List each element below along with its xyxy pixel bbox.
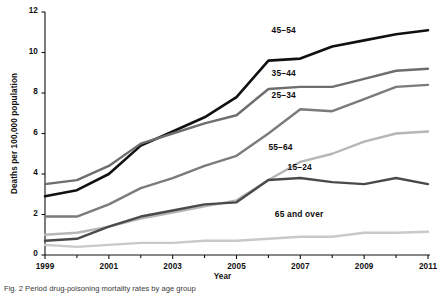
- y-tick-label: 2: [12, 209, 38, 218]
- x-axis-title: Year: [0, 272, 445, 281]
- figure-caption: Fig. 2 Period drug-poisoning mortality r…: [4, 284, 440, 293]
- series-line-45-54: [45, 30, 428, 196]
- x-tick-label: 2003: [153, 262, 193, 271]
- series-label-25-34: 25–34: [272, 90, 296, 100]
- y-tick-label: 6: [12, 128, 38, 137]
- series-line-65 and over: [45, 232, 428, 247]
- x-tick-label: 2005: [217, 262, 257, 271]
- series-line-15-24: [45, 178, 428, 241]
- series-line-25-34: [45, 85, 428, 217]
- y-tick-label: 10: [12, 47, 38, 56]
- x-tick-label: 2007: [280, 262, 320, 271]
- y-tick-label: 4: [12, 168, 38, 177]
- series-label-35-44: 35–44: [272, 68, 296, 78]
- line-chart-canvas: [0, 0, 445, 293]
- x-tick-label: 2009: [344, 262, 384, 271]
- chart-axes: [42, 12, 431, 259]
- series-label-55-64: 55–64: [268, 142, 292, 152]
- series-line-35-44: [45, 69, 428, 184]
- x-tick-label: 2001: [89, 262, 129, 271]
- y-tick-label: 12: [12, 6, 38, 15]
- y-tick-label: 8: [12, 87, 38, 96]
- series-label-65 and over: 65 and over: [275, 209, 324, 219]
- x-tick-label: 2011: [408, 262, 445, 271]
- x-tick-label: 1999: [25, 262, 65, 271]
- y-tick-label: 0: [12, 249, 38, 258]
- series-label-45-54: 45–54: [272, 25, 296, 35]
- figure-container: Deaths per 100,000 population Year 02468…: [0, 0, 445, 293]
- chart-series: [45, 30, 428, 247]
- series-label-15-24: 15–24: [288, 162, 312, 172]
